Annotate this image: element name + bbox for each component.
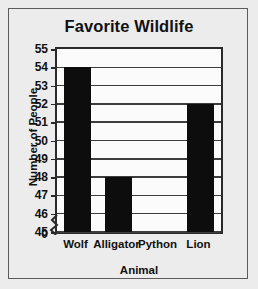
tick-mark bbox=[51, 104, 56, 106]
x-axis-tick-labels: WolfAlligatorPythonLion bbox=[55, 238, 223, 254]
y-axis-tick-label: 52 bbox=[24, 97, 48, 111]
y-axis-tick-label: 49 bbox=[24, 152, 48, 166]
tick-mark bbox=[51, 141, 56, 143]
axis-break-icon bbox=[48, 215, 60, 235]
plot-area: 5554535251504948474645 bbox=[55, 47, 223, 234]
tick-mark bbox=[51, 49, 56, 51]
y-axis-tick-label: 50 bbox=[24, 134, 48, 148]
x-axis-tick-label: Python bbox=[138, 238, 177, 250]
bar-lion bbox=[187, 104, 214, 232]
y-axis-tick-label: 54 bbox=[24, 60, 48, 74]
chart-figure: Favorite Wildlife Number of People 55545… bbox=[0, 0, 258, 289]
y-axis-tick-label: 51 bbox=[24, 115, 48, 129]
y-axis-tick-label: 48 bbox=[24, 170, 48, 184]
y-axis-tick-label: 55 bbox=[24, 42, 48, 56]
x-axis-title: Animal bbox=[55, 264, 223, 276]
bar-alligator bbox=[105, 177, 132, 232]
y-axis-tick-label: 53 bbox=[24, 79, 48, 93]
x-axis-tick-label: Alligator bbox=[93, 238, 140, 250]
tick-mark bbox=[51, 177, 56, 179]
bar-wolf bbox=[64, 67, 91, 232]
tick-mark bbox=[51, 159, 56, 161]
chart-title: Favorite Wildlife bbox=[0, 17, 258, 36]
tick-mark bbox=[51, 86, 56, 88]
x-axis-tick-label: Lion bbox=[186, 238, 210, 250]
tick-mark bbox=[51, 122, 56, 124]
y-axis-tick-label: 46 bbox=[24, 207, 48, 221]
y-axis-tick-label: 47 bbox=[24, 188, 48, 202]
tick-mark bbox=[51, 195, 56, 197]
y-axis-zero-label: 0 bbox=[24, 227, 48, 241]
tick-mark bbox=[51, 67, 56, 69]
x-axis-tick-label: Wolf bbox=[63, 238, 88, 250]
